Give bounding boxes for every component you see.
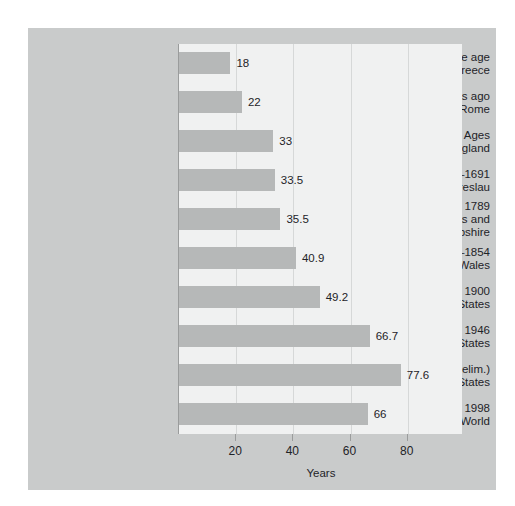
bar-row: 18 [179,44,462,83]
bar [179,364,401,386]
x-tick-80 [407,434,408,441]
chart-panel: Early iron and bronze ageGreeceAbout 2,0… [28,28,496,490]
bar-row: 66.7 [179,317,462,356]
bar [179,325,370,347]
bar [179,208,280,230]
figure: Early iron and bronze ageGreeceAbout 2,0… [0,0,515,506]
bar [179,403,368,425]
bar-value-label: 22 [242,91,261,113]
x-tick-20 [235,434,236,441]
plot-area: 18223333.535.540.949.266.777.666 [178,44,462,434]
bar-value-label: 66 [368,403,387,425]
x-tick-60 [350,434,351,441]
bar [179,52,230,74]
x-tick-label-60: 60 [343,444,356,458]
x-tick-label-20: 20 [228,444,241,458]
bar-row: 22 [179,83,462,122]
bar-value-label: 33.5 [275,169,303,191]
bar [179,130,273,152]
bar-row: 49.2 [179,278,462,317]
bar-value-label: 77.6 [401,364,429,386]
bar-value-label: 35.5 [280,208,308,230]
x-tick-label-40: 40 [286,444,299,458]
bar-value-label: 40.9 [296,247,324,269]
x-tick-40 [292,434,293,441]
bar-value-label: 18 [230,52,249,74]
bar-row: 77.6 [179,356,462,395]
bar [179,286,320,308]
x-tick-label-80: 80 [400,444,413,458]
bar-row: 40.9 [179,239,462,278]
bar-row: 66 [179,395,462,434]
bar-row: 33 [179,122,462,161]
bar [179,247,296,269]
bar-value-label: 49.2 [320,286,348,308]
bar-value-label: 66.7 [370,325,398,347]
bar [179,91,242,113]
x-axis-title: Years [306,467,335,479]
bar-value-label: 33 [273,130,292,152]
bar [179,169,275,191]
bar-row: 35.5 [179,200,462,239]
bar-row: 33.5 [179,161,462,200]
